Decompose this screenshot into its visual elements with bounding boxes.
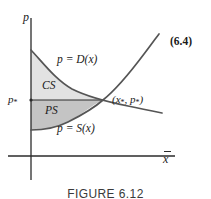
- figure-caption: FIGURE 6.12: [0, 187, 211, 199]
- quantity-axis-label: x: [163, 151, 171, 165]
- producer-surplus-label: PS: [45, 105, 58, 117]
- p-star-subscript: *: [14, 98, 18, 107]
- paren-close: ): [139, 93, 143, 105]
- supply-curve-label: p = S(x): [57, 123, 95, 135]
- equilibrium-price-tick-label: p*: [8, 94, 17, 107]
- price-axis-tick: [29, 98, 32, 101]
- supply-demand-plot: [0, 0, 211, 199]
- figure-container: p x p* p = D(x) p = S(x) CS PS (x*, p*) …: [0, 0, 211, 199]
- consumer-surplus-label: CS: [42, 80, 55, 92]
- demand-curve-label: p = D(x): [57, 54, 97, 66]
- equilibrium-point-label: (x*, p*): [112, 94, 143, 107]
- equation-number: (6.4): [170, 36, 192, 48]
- quantity-axis-letter: x: [163, 152, 168, 166]
- price-axis-label: p: [23, 11, 29, 23]
